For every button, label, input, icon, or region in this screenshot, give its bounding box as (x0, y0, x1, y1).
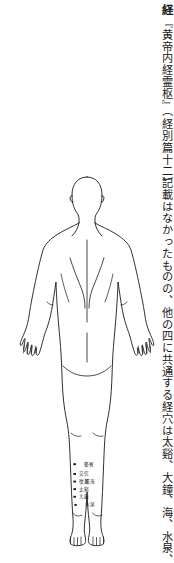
acupoint-marker-chikuhin[interactable] (73, 463, 76, 465)
acupoint-marker-taikei[interactable] (73, 488, 76, 490)
article-heading: 経 (161, 2, 173, 17)
anatomical-figure: 築賓 交信 復溜 照海 太谿 大鐘 水泉 (0, 170, 174, 563)
acupoint-marker-koshin[interactable] (73, 473, 76, 475)
acupoint-label-koshin: 交信 (79, 470, 89, 477)
acupoint-label-daisho: 大鐘 (79, 493, 89, 500)
acupoint-marker-daisho[interactable] (73, 496, 76, 498)
head-outline (72, 177, 102, 225)
acupoint-marker-fukuryu[interactable] (73, 481, 76, 483)
acupoint-label-taikei: 太谿 (79, 486, 89, 493)
acupoint-marker-suisen[interactable] (74, 504, 76, 506)
acupoint-label-suisen: 水泉 (85, 501, 95, 507)
acupoint-label-shokai: 照海 (85, 478, 95, 485)
acupoint-label-chikuhin: 築賓 (84, 461, 94, 468)
text-column-1: 『黄帝内経霊枢』（経別篇十二） (161, 17, 172, 177)
